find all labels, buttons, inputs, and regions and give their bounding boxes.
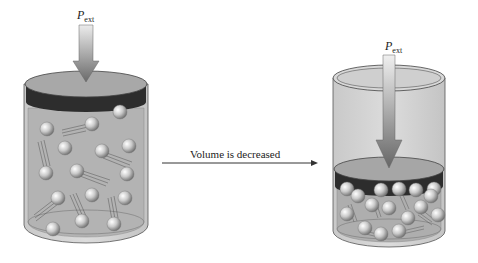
gas-compression-diagram: Pext Volume is decreased bbox=[0, 0, 478, 263]
right-cylinder: Pext bbox=[333, 39, 445, 247]
left-cylinder: Pext bbox=[24, 8, 148, 243]
pressure-label-right: Pext bbox=[384, 39, 403, 55]
transition-arrow: Volume is decreased bbox=[162, 148, 318, 166]
transition-caption: Volume is decreased bbox=[190, 148, 281, 160]
pressure-label-left: Pext bbox=[76, 8, 95, 24]
